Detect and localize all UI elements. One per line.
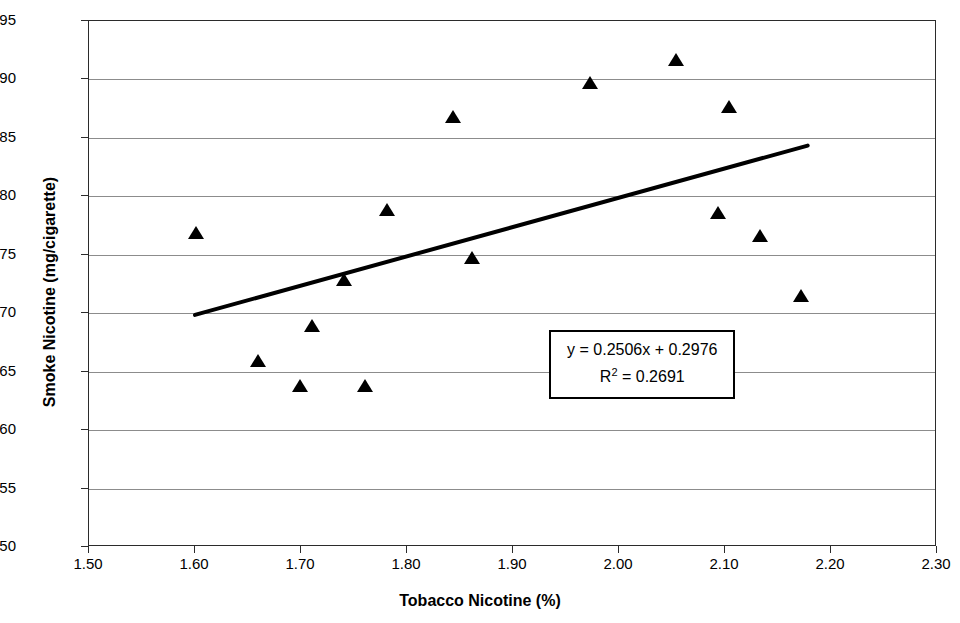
- y-axis-tick-label: 0.85: [0, 129, 16, 144]
- data-point-marker: [336, 273, 352, 286]
- data-point-marker: [793, 289, 809, 302]
- y-axis-tick-mark: [81, 371, 88, 372]
- trendline: [89, 21, 937, 547]
- y-axis-tick-label: 0.75: [0, 246, 16, 261]
- y-axis-tick-mark: [81, 312, 88, 313]
- y-axis-tick-mark: [81, 546, 88, 547]
- x-axis-tick-label: 1.50: [53, 556, 123, 571]
- y-axis-tick-mark: [81, 254, 88, 255]
- x-axis-tick-mark: [512, 546, 513, 553]
- data-point-marker: [304, 319, 320, 332]
- x-axis-tick-label: 2.20: [795, 556, 865, 571]
- x-axis-tick-label: 1.70: [265, 556, 335, 571]
- y-axis-tick-mark: [81, 195, 88, 196]
- r-symbol: R: [600, 368, 612, 385]
- x-axis-tick-label: 2.10: [689, 556, 759, 571]
- data-point-marker: [710, 206, 726, 219]
- x-axis-tick-mark: [724, 546, 725, 553]
- data-point-marker: [721, 100, 737, 113]
- x-axis-tick-mark: [618, 546, 619, 553]
- x-axis-tick-label: 2.30: [901, 556, 960, 571]
- data-point-marker: [582, 76, 598, 89]
- data-point-marker: [250, 354, 266, 367]
- y-axis-tick-label: 0.80: [0, 187, 16, 202]
- scatter-chart: 0.500.550.600.650.700.750.800.850.900.95…: [0, 0, 960, 623]
- y-axis-tick-mark: [81, 78, 88, 79]
- x-axis-tick-mark: [936, 546, 937, 553]
- plot-area: [88, 20, 936, 546]
- data-point-marker: [357, 379, 373, 392]
- r-squared-number: = 0.2691: [618, 368, 685, 385]
- y-axis-tick-label: 0.90: [0, 70, 16, 85]
- data-point-marker: [668, 53, 684, 66]
- x-axis-tick-label: 1.90: [477, 556, 547, 571]
- y-axis-tick-label: 0.55: [0, 480, 16, 495]
- x-axis-tick-mark: [194, 546, 195, 553]
- data-point-marker: [379, 203, 395, 216]
- y-axis-tick-mark: [81, 20, 88, 21]
- y-axis-tick-label: 0.60: [0, 421, 16, 436]
- x-axis-title: Tobacco Nicotine (%): [0, 592, 960, 610]
- x-axis-tick-label: 2.00: [583, 556, 653, 571]
- data-point-marker: [188, 226, 204, 239]
- x-axis-tick-mark: [830, 546, 831, 553]
- y-axis-tick-mark: [81, 137, 88, 138]
- data-point-marker: [292, 379, 308, 392]
- x-axis-tick-label: 1.80: [371, 556, 441, 571]
- regression-equation: y = 0.2506x + 0.2976: [567, 339, 717, 361]
- r-squared-value: R2 = 0.2691: [567, 361, 717, 388]
- y-axis-tick-label: 0.65: [0, 363, 16, 378]
- y-axis-tick-label: 0.95: [0, 12, 16, 27]
- x-axis-tick-mark: [300, 546, 301, 553]
- x-axis-tick-label: 1.60: [159, 556, 229, 571]
- y-axis-tick-mark: [81, 488, 88, 489]
- y-axis-tick-mark: [81, 429, 88, 430]
- y-axis-tick-label: 0.50: [0, 538, 16, 553]
- data-point-marker: [445, 110, 461, 123]
- y-axis-title: Smoke Nicotine (mg/cigarette): [41, 52, 59, 532]
- y-axis-tick-label: 0.70: [0, 304, 16, 319]
- equation-annotation-box: y = 0.2506x + 0.2976 R2 = 0.2691: [549, 330, 735, 399]
- x-axis-tick-mark: [406, 546, 407, 553]
- x-axis-tick-mark: [88, 546, 89, 553]
- data-point-marker: [752, 229, 768, 242]
- data-point-marker: [464, 251, 480, 264]
